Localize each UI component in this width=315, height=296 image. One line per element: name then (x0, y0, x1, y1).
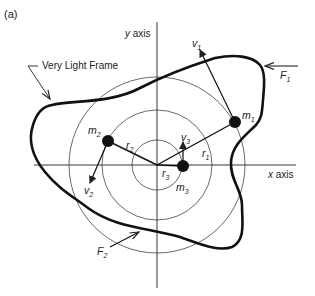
radius-r2-label: r2 (126, 139, 134, 153)
velocity-v1-arrow (200, 50, 235, 122)
mass-m2 (102, 135, 114, 147)
x-axis-label: x axis (267, 169, 294, 180)
velocity-v2-label: v2 (84, 184, 93, 198)
radius-r3-label: r3 (162, 167, 170, 181)
force-f2-arrow (110, 232, 139, 247)
force-f2-label: F2 (97, 245, 107, 259)
mass-m1 (229, 116, 241, 128)
panel-label: (a) (4, 8, 17, 20)
mass-m1-label: m1 (242, 109, 255, 123)
frame-label: Very Light Frame (42, 60, 119, 71)
velocity-v2-arrow (90, 141, 108, 183)
radius-r1-label: r1 (202, 147, 210, 161)
mass-m3-label: m3 (176, 181, 189, 195)
force-f1-label: F1 (280, 69, 290, 83)
rigid-body-diagram: (a) y axis x axis Very Light Frame m1 m2… (0, 0, 315, 296)
velocity-v3-label: v3 (181, 131, 190, 145)
radius-r1 (157, 122, 235, 165)
y-axis-label: y axis (124, 28, 151, 39)
very-light-frame (31, 56, 264, 249)
mass-m2-label: m2 (88, 124, 101, 138)
velocity-v1-label: v1 (192, 37, 201, 51)
mass-m3 (177, 160, 189, 172)
